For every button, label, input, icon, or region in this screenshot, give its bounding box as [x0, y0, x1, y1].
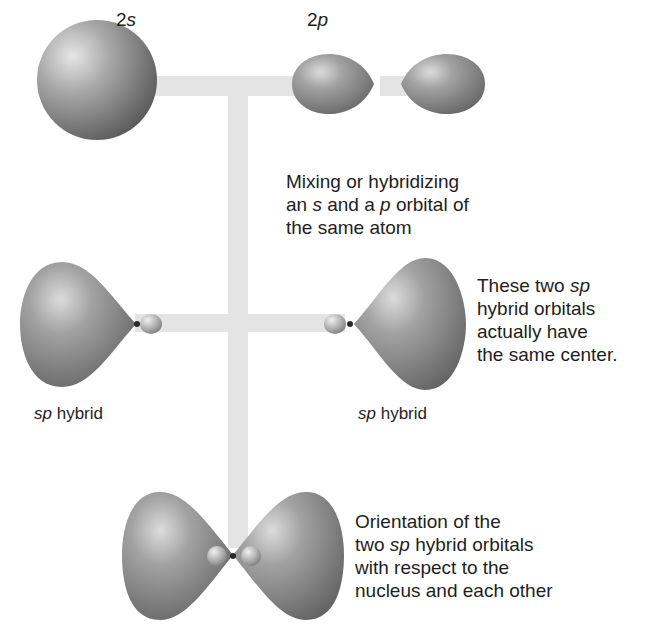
caption-same-center-line2: hybrid orbitals: [477, 297, 617, 320]
caption-mixing: Mixing or hybridizing an s and a p orbit…: [286, 170, 469, 239]
2s-orbital-sphere: [37, 20, 157, 140]
text-sp: sp: [358, 404, 376, 423]
caption-orientation-line3: with respect to the: [355, 556, 553, 579]
sp-hybrid-left: [20, 262, 162, 387]
caption-mixing-line1: Mixing or hybridizing: [286, 170, 469, 193]
caption-same-center-line1: These two sp: [477, 274, 617, 297]
text: These two: [477, 275, 570, 296]
caption-mixing-line2: an s and a p orbital of: [286, 193, 469, 216]
text: hybrid orbitals: [410, 534, 534, 555]
label-2p: 2p: [307, 8, 328, 31]
sp-hybrid-right: [324, 258, 466, 390]
caption-same-center-line3: actually have: [477, 320, 617, 343]
text-p: p: [380, 194, 391, 215]
sp-hybridization-diagram: 2s 2p Mixing or hybridizing an s and a p…: [0, 0, 645, 627]
text-s: s: [312, 194, 322, 215]
caption-orientation-line4: nucleus and each other: [355, 579, 553, 602]
label-2s: 2s: [116, 8, 136, 31]
text-sp: sp: [570, 275, 590, 296]
text: hybrid: [376, 404, 427, 423]
label-2p-letter: p: [318, 9, 329, 30]
label-2s-letter: s: [127, 9, 137, 30]
label-2s-number: 2: [116, 9, 127, 30]
text: two: [355, 534, 390, 555]
text: and a: [322, 194, 380, 215]
caption-orientation: Orientation of the two sp hybrid orbital…: [355, 510, 553, 602]
label-2p-number: 2: [307, 9, 318, 30]
label-sp-hybrid-right: sp hybrid: [358, 402, 427, 425]
text: hybrid: [52, 404, 103, 423]
text: an: [286, 194, 312, 215]
caption-orientation-line1: Orientation of the: [355, 510, 553, 533]
caption-orientation-line2: two sp hybrid orbitals: [355, 533, 553, 556]
text-sp: sp: [390, 534, 410, 555]
caption-same-center-line4: the same center.: [477, 343, 617, 366]
text: orbital of: [391, 194, 469, 215]
text-sp: sp: [34, 404, 52, 423]
caption-same-center: These two sp hybrid orbitals actually ha…: [477, 274, 617, 366]
label-sp-hybrid-left: sp hybrid: [34, 402, 103, 425]
caption-mixing-line3: the same atom: [286, 216, 469, 239]
